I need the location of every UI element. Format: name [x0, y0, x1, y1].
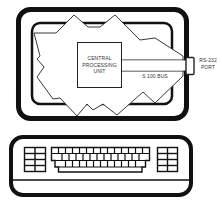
cpu-label-line3: UNIT [77, 68, 122, 75]
bus-label: S 100 BUS [135, 73, 175, 80]
computer-diagram [0, 0, 222, 207]
rs232-port-connector [186, 58, 194, 75]
keyboard-main-keys [52, 148, 150, 173]
keyboard-right-keypad [158, 148, 178, 172]
port-label-line2: PORT [194, 64, 222, 71]
port-label: RS-232 PORT [194, 57, 222, 70]
keyboard-left-keypad [25, 148, 46, 172]
cpu-label: CENTRAL PROCESSING UNIT [77, 55, 122, 75]
